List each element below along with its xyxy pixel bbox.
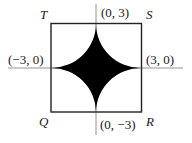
vertex-label-q: Q: [39, 114, 49, 129]
shaded-region: [51, 24, 142, 113]
vertex-label-t: T: [40, 7, 48, 22]
point-label-top: (0, 3): [101, 5, 129, 20]
vertex-label-s: S: [146, 7, 153, 22]
point-label-left: (−3, 0): [8, 52, 44, 67]
point-label-bottom: (0, −3): [100, 117, 136, 132]
geometry-diagram: T S Q R (0, 3) (3, 0) (−3, 0) (0, −3): [0, 0, 192, 143]
point-label-right: (3, 0): [146, 52, 174, 67]
vertex-label-r: R: [145, 114, 154, 129]
